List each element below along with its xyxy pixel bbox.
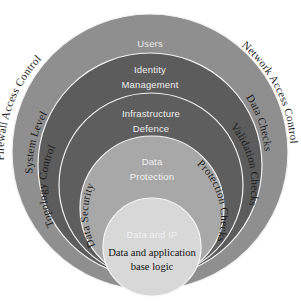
layer-identity-management-label-line2: Management <box>122 79 179 90</box>
layer-users-label: Users <box>137 38 163 49</box>
onion-diagram: Users Firewall Access Control Network Ac… <box>0 0 301 308</box>
layer-data-protection-label-line2: Protection <box>130 171 174 182</box>
layer-core: Data and IP Data and application base lo… <box>103 198 201 296</box>
layer-infrastructure-defence-label-line1: Infrastructure <box>122 108 180 119</box>
core-title-line1: Data and application <box>108 247 196 258</box>
core-data-and-ip-label: Data and IP <box>127 230 178 240</box>
onion-diagram-svg: Users Firewall Access Control Network Ac… <box>0 0 301 308</box>
layer-data-protection-label-line1: Data <box>142 156 163 167</box>
layer-infrastructure-defence-label-line2: Defence <box>133 123 169 134</box>
layer-identity-management-label-line1: Identity <box>134 64 166 75</box>
core-title-line2: base logic <box>131 261 174 272</box>
